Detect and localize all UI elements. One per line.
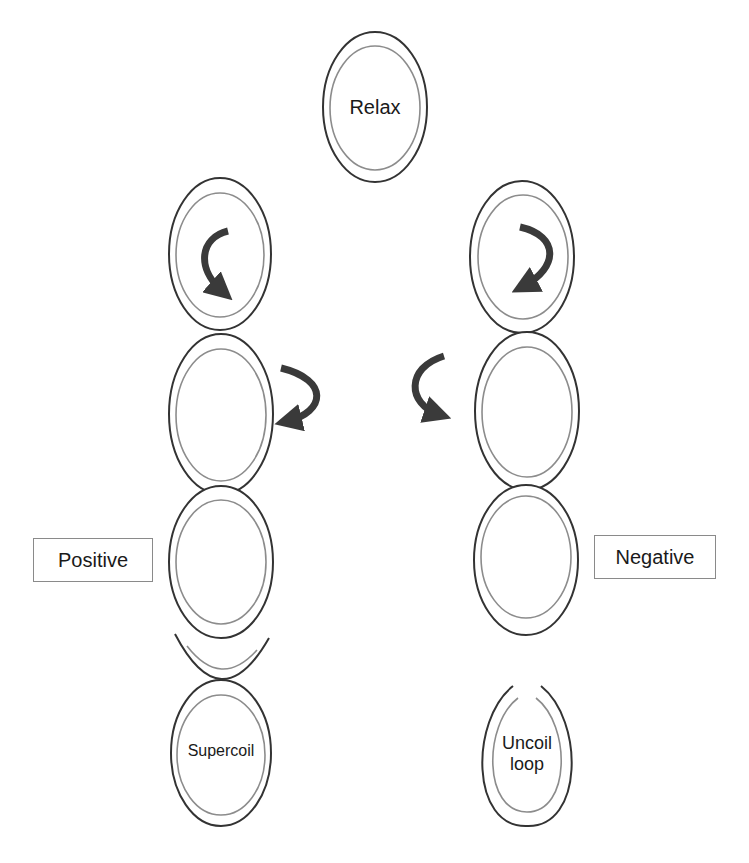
- relax-label: Relax: [323, 96, 427, 119]
- uncoil-label-line1: Uncoil: [480, 733, 574, 754]
- negative-label-box: Negative: [594, 535, 716, 579]
- negative-chain: [470, 181, 579, 826]
- uncoil-label-line2: loop: [480, 754, 574, 775]
- uncoil-loop-label: Uncoil loop: [480, 733, 574, 774]
- rotation-arrow-left-mid-icon: [281, 368, 317, 421]
- positive-chain: [169, 178, 273, 826]
- rotation-arrow-right-mid-icon: [415, 356, 444, 414]
- positive-label: Positive: [58, 549, 128, 572]
- positive-label-box: Positive: [33, 538, 153, 582]
- supercoil-diagram: [0, 0, 749, 863]
- negative-label: Negative: [616, 546, 695, 569]
- supercoil-label: Supercoil: [171, 742, 271, 760]
